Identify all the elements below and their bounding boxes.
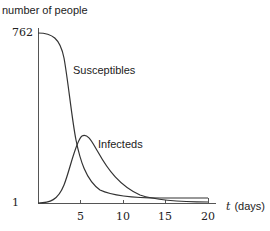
plot-area (0, 0, 270, 231)
susceptibles-curve (38, 33, 208, 198)
infecteds-curve (38, 135, 208, 203)
